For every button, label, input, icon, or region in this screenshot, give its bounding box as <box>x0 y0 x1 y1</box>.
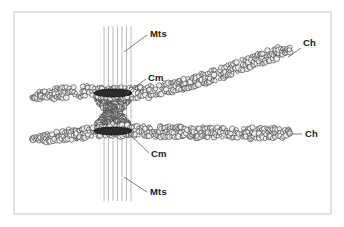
figure-background <box>0 0 344 227</box>
chromatid-upper-bead <box>213 68 217 72</box>
chromatid-upper-bead <box>153 87 157 91</box>
chromatid-upper-bead <box>150 85 154 89</box>
label-ch-top: Ch <box>303 37 316 48</box>
chromatid-lower-bead <box>287 131 292 136</box>
label-cm-top: Cm <box>148 72 164 83</box>
diagram-canvas: MtsCmChCmChMts <box>0 0 344 227</box>
chromatid-upper-bead <box>213 79 217 83</box>
chromatid-lower-bead <box>262 131 265 134</box>
chromatid-upper-bead <box>74 91 77 94</box>
cm-band-upper <box>94 89 132 97</box>
chromatid-lower-bead <box>221 136 224 139</box>
chromatid-upper-bead <box>231 71 234 74</box>
chromatid-lower-bead <box>250 125 255 130</box>
chromatid-lower-bead <box>90 134 94 138</box>
chromatid-upper-bead <box>49 93 52 96</box>
label-cm-bottom: Cm <box>151 148 167 159</box>
label-mts-top: Mts <box>150 28 167 39</box>
chromatid-upper-bead <box>71 85 76 90</box>
label-ch-bottom: Ch <box>305 128 318 139</box>
chromatid-upper-bead <box>211 72 217 78</box>
chromatid-lower-bead <box>221 130 225 134</box>
chromatid-upper-bead <box>147 87 152 92</box>
chromatid-lower-bead <box>137 134 140 137</box>
label-mts-bottom: Mts <box>150 186 167 197</box>
chromatid-lower-bead <box>205 135 210 140</box>
chromatid-upper-bead <box>234 60 239 65</box>
chromatid-upper-bead <box>287 48 291 52</box>
cm-band-lower <box>94 127 132 135</box>
chromatid-lower-bead <box>87 130 90 133</box>
chromosome-figure: MtsCmChCmChMts <box>0 0 344 227</box>
